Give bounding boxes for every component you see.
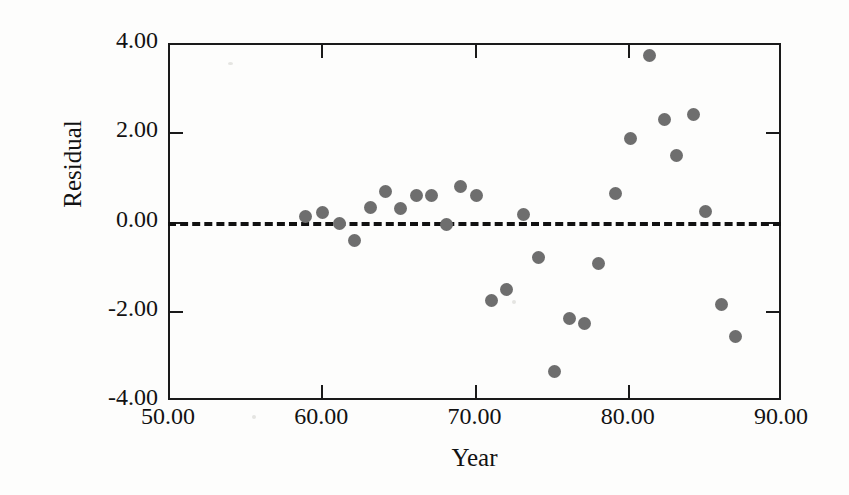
y-axis-tick-label: -4.00 <box>0 384 158 411</box>
data-point <box>394 202 407 215</box>
data-point <box>454 180 467 193</box>
data-point <box>299 210 312 223</box>
x-axis-tick-label: 70.00 <box>448 403 502 430</box>
scan-speck <box>512 300 516 304</box>
x-axis-title: Year <box>168 444 781 472</box>
residual-scatter-plot-figure: 4.00 2.00 0.00 -2.00 -4.00 50.0060.0070.… <box>0 0 849 495</box>
data-point <box>643 49 656 62</box>
scan-speck <box>252 415 256 419</box>
data-points-layer <box>168 43 781 400</box>
data-point <box>440 218 453 231</box>
data-point <box>500 283 513 296</box>
scan-speck <box>228 62 233 65</box>
x-axis-tick-label: 90.00 <box>754 403 808 430</box>
data-point <box>364 201 377 214</box>
data-point <box>517 208 530 221</box>
data-point <box>592 257 605 270</box>
y-axis-title: Residual <box>59 84 87 244</box>
data-point <box>348 234 361 247</box>
data-point <box>624 132 637 145</box>
data-point <box>715 298 728 311</box>
data-point <box>699 205 712 218</box>
data-point <box>563 312 576 325</box>
data-point <box>425 189 438 202</box>
y-axis-tick-label: 4.00 <box>0 27 158 54</box>
data-point <box>470 189 483 202</box>
data-point <box>485 294 498 307</box>
data-point <box>333 217 346 230</box>
x-axis-tick-label: 50.00 <box>141 403 195 430</box>
data-point <box>379 185 392 198</box>
data-point <box>609 187 622 200</box>
data-point <box>687 108 700 121</box>
data-point <box>658 113 671 126</box>
x-axis-tick-label: 60.00 <box>294 403 348 430</box>
data-point <box>532 251 545 264</box>
data-point <box>729 330 742 343</box>
y-axis-tick-label: -2.00 <box>0 295 158 322</box>
data-point <box>410 189 423 202</box>
data-point <box>578 317 591 330</box>
data-point <box>548 365 561 378</box>
x-axis-tick-label: 80.00 <box>601 403 655 430</box>
data-point <box>670 149 683 162</box>
data-point <box>316 206 329 219</box>
